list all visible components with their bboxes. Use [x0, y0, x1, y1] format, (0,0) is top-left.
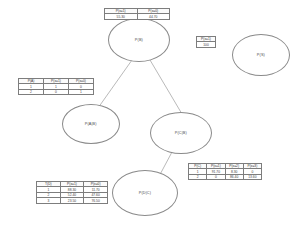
table-cell: 13.60 [243, 174, 261, 179]
table-cell: 3 [37, 198, 61, 203]
table-header-row: P(A)P(x=1)P(x=0) [19, 79, 94, 84]
table-row: 323.5076.50 [37, 198, 108, 203]
node-bottom[interactable]: P(D|C) [112, 170, 178, 216]
node-isolated[interactable]: P(S) [232, 34, 290, 76]
table-cell: 100 [197, 42, 216, 47]
node-label-left: P(A|B) [85, 122, 97, 126]
table-cell: 76.50 [84, 198, 108, 203]
table-cell: 0 [207, 174, 225, 179]
table-cell: 2 [189, 174, 207, 179]
edge-root-to-left [98, 60, 132, 108]
table-row: 55.3044.70 [105, 14, 170, 19]
bayesian-network-diagram: P(B)P(S)P(A|B)P(C|B)P(D|C) P(x=1)P(x=0)5… [0, 0, 300, 235]
table-cell: 2 [19, 89, 44, 94]
table-row: 100 [197, 42, 216, 47]
table-cell: 23.50 [60, 198, 84, 203]
cpt-root: P(x=1)P(x=0)55.3044.70 [104, 8, 170, 20]
table-cell: 0 [44, 89, 69, 94]
table-cell: 44.70 [137, 14, 170, 19]
table-header-row: T(D)P(x=1)P(x=0) [37, 182, 108, 187]
node-left[interactable]: P(A|B) [62, 104, 120, 144]
table-row: 2086.4013.60 [189, 174, 262, 179]
cpt-bottom-left: T(D)P(x=1)P(x=0)188.3011.70252.4047.6032… [36, 181, 108, 204]
node-label-bottom: P(D|C) [139, 191, 151, 195]
table-cell: 55.30 [105, 14, 138, 19]
cpt-bottom-right: P(C)P(x=1)P(x=2)P(x=3)191.708.3002086.40… [188, 163, 262, 180]
table-row: 188.3011.70 [37, 187, 108, 192]
node-label-isolated: P(S) [257, 53, 265, 57]
node-root[interactable]: P(B) [108, 18, 170, 62]
node-right[interactable]: P(C|B) [150, 112, 212, 154]
table-cell: 86.40 [225, 174, 243, 179]
table-row: 252.4047.60 [37, 192, 108, 197]
edge-root-to-right [150, 60, 182, 114]
cpt-small: P(x=1)100 [196, 36, 216, 48]
table-cell: 1 [69, 89, 94, 94]
node-label-right: P(C|B) [175, 131, 187, 135]
table-row: 201 [19, 89, 94, 94]
node-label-root: P(B) [135, 38, 143, 42]
cpt-left: P(A)P(x=1)P(x=0)110201 [18, 78, 94, 95]
